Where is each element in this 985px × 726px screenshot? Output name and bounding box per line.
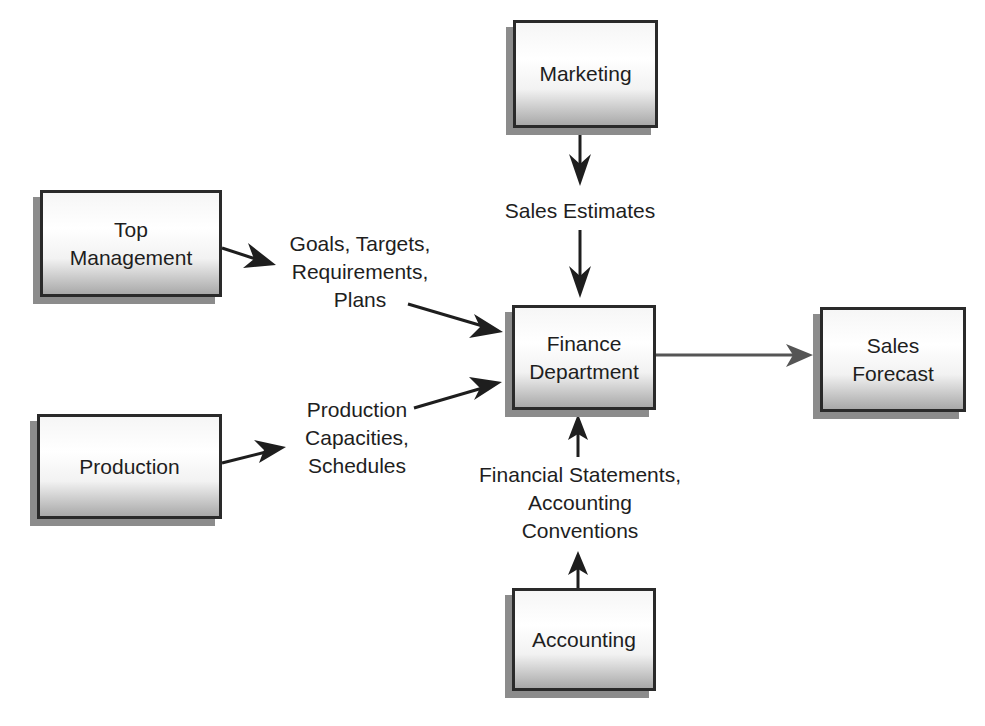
node-marketing-label: Marketing xyxy=(539,60,631,88)
arrow-top-management-to-goals xyxy=(222,243,276,268)
node-accounting: Accounting xyxy=(512,588,656,691)
node-marketing: Marketing xyxy=(513,20,658,128)
arrow-production-to-capacities xyxy=(222,440,286,463)
node-finance-department: Finance Department xyxy=(512,305,656,410)
node-accounting-label: Accounting xyxy=(532,626,636,654)
node-top-management-label: Top Management xyxy=(70,216,193,272)
edge-label-production-capacities: Production Capacities, Schedules xyxy=(282,396,432,480)
edge-label-sales-estimates: Sales Estimates xyxy=(490,197,670,225)
node-production: Production xyxy=(37,414,222,519)
node-top-management: Top Management xyxy=(40,190,222,297)
node-sales-forecast: Sales Forecast xyxy=(820,307,966,412)
node-finance-department-label: Finance Department xyxy=(529,330,639,386)
node-sales-forecast-label: Sales Forecast xyxy=(852,332,934,388)
arrow-sales-estimates-to-finance xyxy=(569,230,591,298)
arrow-marketing-to-sales-estimates xyxy=(569,128,591,186)
edge-label-goals-targets: Goals, Targets, Requirements, Plans xyxy=(270,230,450,314)
arrow-finance-to-sales-forecast xyxy=(656,344,813,367)
arrow-financial-statements-to-finance xyxy=(568,414,588,457)
edge-label-financial-statements: Financial Statements, Accounting Convent… xyxy=(460,461,700,545)
arrow-accounting-to-financial-statements xyxy=(568,551,588,588)
node-production-label: Production xyxy=(79,453,179,481)
